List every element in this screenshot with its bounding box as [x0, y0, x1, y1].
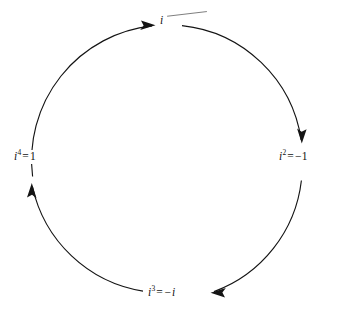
node-label-power-2: i2=−1	[277, 150, 310, 164]
power-4-operator: =	[21, 150, 30, 162]
node-label-power-1: i	[158, 14, 165, 28]
power-4-result: 1	[30, 150, 36, 162]
arrowhead-top-right	[140, 21, 155, 30]
arrowhead-right-down	[297, 128, 307, 143]
arc-right-to-bottom	[214, 181, 301, 292]
stray-scan-mark	[168, 12, 207, 17]
power-2-operator: =	[286, 150, 295, 162]
power-3-result: −i	[164, 286, 175, 298]
node-label-power-4: i4=1	[12, 150, 38, 164]
arc-bottom-to-left	[32, 187, 143, 292]
node-label-power-3: i3=−i	[146, 286, 177, 300]
cycle-diagram: i i2=−1 i3=−i i4=1	[0, 0, 341, 318]
arrowhead-left-up	[27, 183, 37, 198]
arc-left-to-top	[32, 26, 152, 177]
power-1-text: i	[160, 14, 163, 26]
arc-top-to-right	[182, 26, 301, 140]
power-2-result: −1	[295, 150, 308, 162]
power-3-operator: =	[155, 286, 164, 298]
